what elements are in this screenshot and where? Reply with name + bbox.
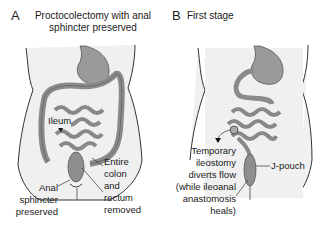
j-pouch-icon	[244, 154, 256, 186]
label-ileostomy-5: anastomosis	[160, 193, 236, 205]
panel-title-line1: Proctocolectomy with anal	[28, 10, 158, 22]
label-ileostomy-4: (while ileoanal	[160, 181, 236, 193]
label-removed-2: colon	[104, 168, 127, 180]
label-ileum: Ileum	[48, 115, 71, 127]
label-removed-3: and	[104, 180, 120, 192]
label-ileostomy-6: heals)	[160, 205, 236, 217]
label-ileostomy-1: Temporary	[160, 145, 236, 157]
label-ileostomy-2: ileostomy	[160, 157, 236, 169]
label-anal-sphincter-2: sphincter	[8, 194, 58, 206]
label-anal-sphincter-1: Anal	[30, 182, 58, 194]
panel-a-proctocolectomy: A Proctocolectomy with anal sphincter pr…	[0, 0, 160, 225]
panel-letter: A	[11, 8, 20, 23]
rectum-icon	[68, 152, 84, 182]
panel-title: First stage	[187, 10, 234, 22]
panel-b-first-stage: B First stage Temporary ileostomy divert…	[160, 0, 319, 225]
panel-title-line2: sphincter preserved	[28, 22, 158, 34]
panel-letter: B	[172, 8, 181, 23]
label-anal-sphincter-3: preserved	[4, 206, 58, 218]
label-removed-1: Entire	[104, 156, 129, 168]
label-j-pouch: J-pouch	[271, 160, 305, 172]
label-removed-4: rectum	[104, 192, 133, 204]
label-removed-5: removed	[104, 204, 141, 216]
label-ileostomy-3: diverts flow	[160, 169, 236, 181]
